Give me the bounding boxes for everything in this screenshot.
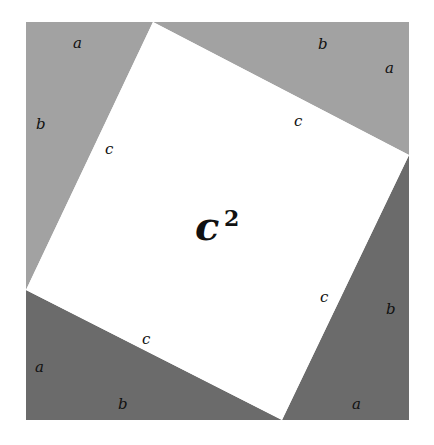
label-a-bottom-right: a [352, 395, 361, 413]
label-c-top-right: c [294, 112, 303, 130]
pythagoras-diagram: a b c b a c c a b c b a c 2 [0, 0, 434, 445]
label-b-top-right: b [318, 35, 328, 53]
label-a-top-left: a [73, 34, 82, 52]
label-c-top-left: c [105, 140, 114, 158]
label-b-bottom-left: b [118, 395, 128, 413]
center-label-exponent: 2 [224, 205, 239, 231]
label-c-bottom-left: c [142, 330, 151, 348]
center-label-base: c [195, 202, 219, 249]
label-b-bottom-right: b [386, 300, 396, 318]
label-c-bottom-right: c [320, 288, 329, 306]
label-b-top-left: b [36, 115, 46, 133]
label-a-bottom-left: a [35, 358, 44, 376]
label-a-top-right: a [385, 59, 394, 77]
